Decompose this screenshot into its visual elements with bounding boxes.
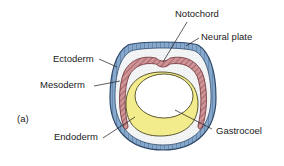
panel-label: (a) (17, 114, 29, 124)
embryo-cross-section-figure: Notochord Neural plate Ectoderm Mesoderm… (0, 0, 284, 166)
leader-ectoderm (99, 59, 117, 67)
label-mesoderm: Mesoderm (40, 80, 85, 90)
label-gastrocoel: Gastrocoel (216, 126, 262, 136)
label-ectoderm: Ectoderm (53, 54, 94, 64)
label-neural-plate: Neural plate (201, 32, 252, 42)
gastrocoel-lumen (135, 74, 193, 118)
label-notochord: Notochord (175, 9, 219, 19)
label-endoderm: Endoderm (54, 132, 98, 142)
